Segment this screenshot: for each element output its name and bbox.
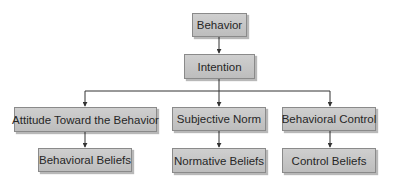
node-label: Control Beliefs: [292, 155, 367, 167]
node-behavior: Behavior: [192, 13, 247, 37]
node-label: Behavioral Control: [282, 113, 377, 125]
node-behavioral-control: Behavioral Control: [282, 107, 376, 131]
node-label: Subjective Norm: [177, 113, 261, 125]
node-label: Normative Beliefs: [174, 155, 264, 167]
node-control-beliefs: Control Beliefs: [282, 148, 376, 173]
node-behavioral-beliefs: Behavioral Beliefs: [38, 148, 132, 172]
node-label: Behavioral Beliefs: [39, 154, 131, 166]
node-label: Behavior: [197, 19, 242, 31]
node-label: Attitude Toward the Behavior: [12, 114, 159, 126]
node-intention: Intention: [184, 54, 255, 79]
node-attitude: Attitude Toward the Behavior: [14, 107, 157, 132]
node-label: Intention: [197, 61, 241, 73]
node-normative-beliefs: Normative Beliefs: [172, 148, 266, 173]
node-subjective-norm: Subjective Norm: [172, 107, 266, 131]
